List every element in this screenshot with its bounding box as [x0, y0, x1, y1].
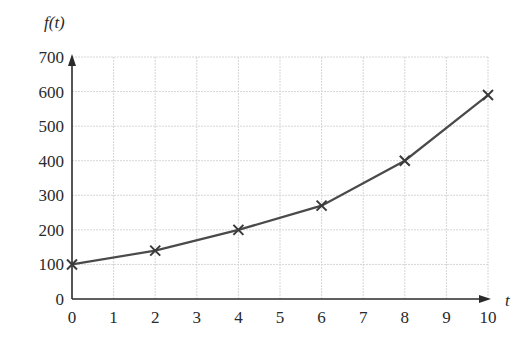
- y-tick-label: 400: [39, 152, 65, 171]
- y-tick-label: 200: [39, 221, 65, 240]
- x-tick-label: 0: [68, 308, 77, 327]
- x-tick-label: 2: [151, 308, 160, 327]
- y-tick-label: 700: [39, 48, 65, 67]
- x-axis-label: t: [505, 291, 511, 310]
- y-tick-label: 0: [56, 290, 65, 309]
- y-tick-label: 100: [39, 255, 65, 274]
- x-tick-label: 4: [234, 308, 243, 327]
- grid-lines: [72, 57, 488, 299]
- line-chart: 0123456789100100200300400500600700 f(t) …: [0, 0, 531, 342]
- x-tick-label: 5: [276, 308, 285, 327]
- x-tick-label: 10: [480, 308, 497, 327]
- y-tick-label: 300: [39, 186, 65, 205]
- x-tick-label: 7: [359, 308, 368, 327]
- y-axis-label: f(t): [44, 13, 65, 32]
- x-tick-label: 1: [109, 308, 118, 327]
- x-tick-label: 6: [317, 308, 326, 327]
- x-tick-label: 8: [401, 308, 410, 327]
- x-axis-arrow-icon: [479, 295, 491, 303]
- x-tick-label: 3: [193, 308, 202, 327]
- y-axis-arrow-icon: [68, 54, 76, 66]
- data-series: [67, 90, 493, 269]
- y-tick-label: 600: [39, 83, 65, 102]
- x-tick-label: 9: [442, 308, 451, 327]
- tick-labels: 0123456789100100200300400500600700: [39, 48, 497, 327]
- y-tick-label: 500: [39, 117, 65, 136]
